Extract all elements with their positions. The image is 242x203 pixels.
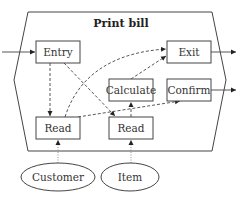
node-customer-label: Customer [32, 171, 85, 183]
node-entry-label: Entry [43, 46, 73, 58]
process-title: Print bill [93, 17, 148, 30]
node-item-label: Item [118, 171, 143, 183]
node-read-item-label: Read [117, 122, 144, 134]
node-calculate: Calculate [106, 79, 156, 101]
print-bill-diagram: Print bill Entry Exit Calculate Confirm … [0, 0, 242, 203]
node-exit: Exit [167, 41, 211, 63]
node-confirm-label: Confirm [167, 84, 210, 96]
node-confirm: Confirm [167, 79, 211, 101]
node-read-customer-label: Read [44, 122, 71, 134]
node-read-item: Read [109, 117, 153, 139]
edge-read-customer-confirm [78, 101, 180, 117]
edge-calculate-exit [131, 56, 166, 79]
node-calculate-label: Calculate [106, 84, 156, 96]
node-entry: Entry [36, 41, 80, 63]
node-customer: Customer [21, 163, 95, 191]
node-item: Item [101, 163, 159, 191]
node-exit-label: Exit [178, 46, 200, 58]
node-read-customer: Read [36, 117, 80, 139]
